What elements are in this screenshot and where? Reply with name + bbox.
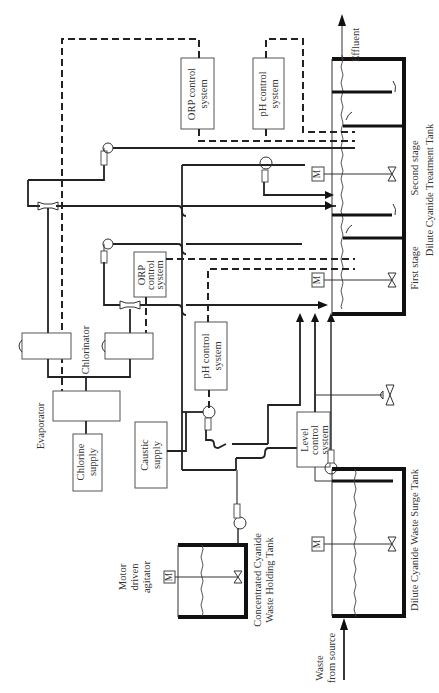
chlorinator-1 bbox=[19, 333, 71, 359]
evaporator bbox=[53, 391, 120, 421]
svg-text:pH control: pH control bbox=[257, 71, 268, 116]
process-flow-diagram: M M Effluent Second stage First stage Di… bbox=[0, 0, 439, 693]
svg-text:Caustic: Caustic bbox=[139, 439, 150, 471]
svg-text:supply: supply bbox=[151, 440, 162, 469]
svg-text:system: system bbox=[198, 79, 209, 108]
dilute-cyanide-surge-tank: M bbox=[312, 469, 404, 616]
arrow-up-icon bbox=[338, 14, 346, 26]
svg-text:M: M bbox=[312, 539, 322, 548]
orp-control-system-mid: ORP control system bbox=[134, 252, 166, 297]
motor-label: M bbox=[312, 169, 322, 178]
concentrated-cyanide-holding-tank: M bbox=[164, 545, 246, 617]
treatment-tank-label: Dilute Cyanide Treatment Tank bbox=[424, 123, 435, 256]
svg-text:pH control: pH control bbox=[200, 333, 211, 378]
svg-text:system: system bbox=[212, 341, 223, 370]
first-stage-label: First stage bbox=[409, 246, 420, 290]
control-valve-icon bbox=[386, 385, 394, 405]
svg-text:system: system bbox=[269, 79, 280, 108]
arrow-up-icon bbox=[340, 618, 348, 630]
waste-inlet: Waste from source bbox=[314, 618, 348, 683]
holding-tank-label: Concentrated Cyanide bbox=[252, 533, 263, 627]
level-control-system: Level control system bbox=[297, 412, 330, 467]
ph-control-system-top: pH control system bbox=[253, 58, 284, 129]
agitator-label: Motor bbox=[117, 563, 128, 590]
svg-text:ORP control: ORP control bbox=[186, 68, 197, 120]
svg-text:supply: supply bbox=[87, 447, 98, 476]
surge-tank-label: Dilute Cyanide Waste Surge Tank bbox=[409, 468, 420, 611]
ph-control-system-mid: pH control system bbox=[195, 322, 227, 390]
caustic-supply: Caustic supply bbox=[135, 422, 167, 488]
ejector-icon bbox=[120, 301, 140, 309]
chlorinator-label: Chlorinator bbox=[80, 325, 91, 374]
chlorinator-2 bbox=[102, 333, 153, 359]
effluent-outlet: Effluent bbox=[338, 14, 361, 62]
svg-text:driven: driven bbox=[129, 563, 140, 591]
svg-text:Chlorine: Chlorine bbox=[75, 443, 86, 480]
effluent-label: Effluent bbox=[350, 28, 361, 62]
motor-label: M bbox=[312, 275, 322, 284]
svg-text:agitator: agitator bbox=[141, 560, 152, 593]
svg-text:from source: from source bbox=[326, 632, 337, 683]
svg-text:system: system bbox=[154, 260, 165, 289]
svg-text:M: M bbox=[164, 572, 174, 581]
evaporator-label: Evaporator bbox=[35, 402, 46, 449]
waste-label: Waste bbox=[314, 655, 325, 681]
second-stage-label: Second stage bbox=[409, 140, 420, 195]
chlorine-supply: Chlorine supply bbox=[73, 434, 102, 491]
svg-text:Waste Holding Tank: Waste Holding Tank bbox=[264, 536, 275, 622]
orp-control-system-top: ORP control system bbox=[181, 58, 214, 129]
